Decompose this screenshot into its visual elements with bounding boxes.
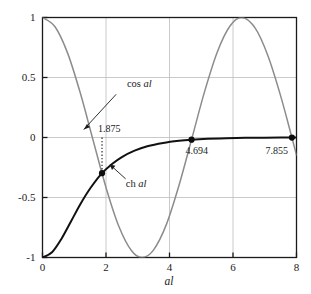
- x-tick-label: 6: [230, 261, 236, 273]
- y-tick-label: 0.5: [22, 71, 36, 83]
- x-tick-label: 4: [167, 261, 173, 273]
- y-tick-label: 0: [30, 131, 36, 143]
- x-tick-label: 8: [294, 261, 300, 273]
- cos-al-vs-ch-al-plot: 02468 10.50-0.5-1 al cos alch al 1.8754.…: [0, 0, 311, 294]
- y-tick-label: -0.5: [18, 191, 36, 203]
- value-label-4694: 4.694: [186, 145, 209, 156]
- marker-point-7855: [289, 135, 295, 141]
- chart-figure: 02468 10.50-0.5-1 al cos alch al 1.8754.…: [0, 0, 311, 294]
- x-axis-title: al: [165, 275, 174, 287]
- marker-point-4694: [188, 137, 194, 143]
- value-label-7855: 7.855: [265, 145, 288, 156]
- x-tick-label: 0: [40, 261, 46, 273]
- y-tick-label: 1: [30, 11, 36, 23]
- marker-point-1875: [99, 170, 105, 176]
- figure-background: [0, 0, 311, 294]
- value-label-1875: 1.875: [98, 123, 121, 134]
- cos-curve-label: cos al: [127, 78, 152, 89]
- x-tick-label: 2: [103, 261, 109, 273]
- y-tick-label: -1: [26, 251, 35, 263]
- ch-curve-label: ch al: [126, 178, 147, 189]
